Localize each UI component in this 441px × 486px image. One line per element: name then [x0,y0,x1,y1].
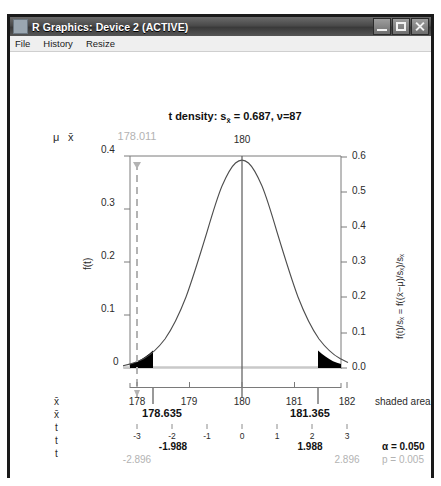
alpha-label: α = 0.050 [382,441,425,452]
right-tick-0.0: 0.0 [352,361,366,372]
t-density-curve [123,160,348,366]
t-tick-minus2: -2 [168,431,176,441]
row-label-t-2: t [55,435,58,446]
right-axis-title: f(t)/s̄ₓ = f((x̄−μ)/s̄ₓ)/s̄ₓ [394,254,405,339]
menu-item-history[interactable]: History [43,38,73,49]
right-tick-0.3: 0.3 [352,255,366,266]
right-tick-0.6: 0.6 [352,150,366,161]
mean-label: 180 [234,134,251,145]
left-axis-title: f(t) [82,258,93,270]
maximize-icon[interactable] [392,18,410,35]
x-tick-180: 180 [234,396,251,407]
row-label-t-1: t [55,422,58,433]
observed-t-low: -2.896 [123,454,151,465]
t-tick-minus1: -1 [203,431,211,441]
critical-xbar-low: 178.635 [142,407,182,419]
left-axis-ticks [124,156,130,368]
window-title: R Graphics: Device 2 (ACTIVE) [32,21,188,33]
right-axis-ticks [341,157,347,368]
critical-t-low: -1.988 [159,441,187,452]
right-tick-0.5: 0.5 [352,185,366,196]
window-controls[interactable] [373,18,429,35]
row-label-xbar-1: x̄ [54,396,59,407]
close-icon[interactable] [411,18,429,35]
right-tick-0.1: 0.1 [352,326,366,337]
x-tick-178: 178 [129,396,146,407]
r-graphics-icon [13,19,28,34]
shaded-area-label: shaded area [375,396,431,407]
p-value-label: p = 0.005 [382,454,424,465]
menu-item-resize[interactable]: Resize [86,38,115,49]
t-tick-minus3: -3 [133,431,141,441]
x-tick-181: 181 [286,396,303,407]
t-tick-3: 3 [345,431,350,441]
observed-value-arrow-icon [133,162,141,169]
minimize-icon[interactable] [373,18,391,35]
x-tick-182: 182 [339,396,356,407]
menu-item-file[interactable]: File [15,38,30,49]
plot-canvas: t density: sx̄ = 0.687, ν=87 μ x̄ 178.01… [10,52,431,481]
xbar-corner-label: x̄ [68,131,74,143]
right-tick-0.2: 0.2 [352,290,366,301]
mu-label: μ [53,131,59,143]
observed-t-high: 2.896 [334,454,359,465]
r-graphics-window: R Graphics: Device 2 (ACTIVE) File Histo… [7,14,434,478]
t-tick-0: 0 [240,431,245,441]
left-tick-0.4: 0.4 [101,144,115,155]
row-label-t-3: t [55,448,58,459]
left-tick-0: 0 [113,356,119,367]
left-tick-0.1: 0.1 [101,303,115,314]
left-tick-0.2: 0.2 [101,250,115,261]
menu-bar[interactable]: File History Resize [10,36,431,52]
critical-t-high: 1.988 [297,441,322,452]
right-tick-0.4: 0.4 [352,220,366,231]
left-tick-0.3: 0.3 [101,197,115,208]
observed-value-label: 178.011 [118,130,157,142]
plot-title: t density: sx̄ = 0.687, ν=87 [168,110,301,125]
window-titlebar[interactable]: R Graphics: Device 2 (ACTIVE) [10,17,431,36]
x-tick-179: 179 [181,396,198,407]
row-label-xbar-2: x̄ [54,409,59,420]
t-axis-ticks [137,424,347,429]
t-tick-2: 2 [310,431,315,441]
t-tick-1: 1 [275,431,280,441]
critical-xbar-high: 181.365 [290,407,330,419]
